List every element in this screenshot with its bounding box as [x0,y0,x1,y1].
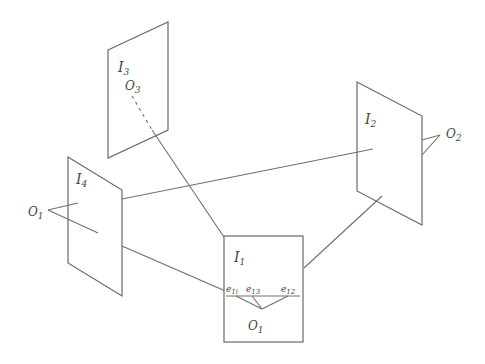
epipolar-diagram: I3 O3 I4 O1 I2 O2 I1 O1 e1i e13 e12 [0,0,485,364]
image-plane-i2 [357,82,422,225]
label-o4: O1 [28,205,44,221]
baseline-i4-i1 [122,246,230,293]
baseline-i3-i1 [152,130,230,246]
label-o2: O2 [446,127,462,143]
baseline-i4-i2 [122,149,373,199]
baseline-i1-i2 [304,196,382,268]
